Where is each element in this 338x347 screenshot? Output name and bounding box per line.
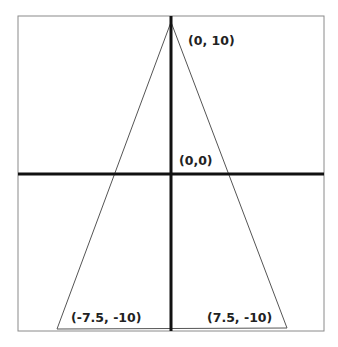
bottom-right-label: (7.5, -10) xyxy=(207,310,272,325)
apex-label: (0, 10) xyxy=(188,33,235,48)
bottom-left-label: (-7.5, -10) xyxy=(71,310,141,325)
origin-label: (0,0) xyxy=(179,153,213,168)
coordinate-diagram: (0, 10) (0,0) (-7.5, -10) (7.5, -10) xyxy=(0,0,338,347)
